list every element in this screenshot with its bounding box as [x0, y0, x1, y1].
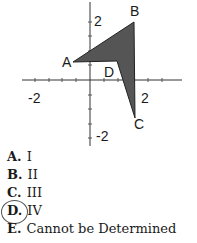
y-tick-label-neg2: -2 [96, 129, 108, 143]
choice-a[interactable]: A.I [7, 148, 176, 166]
y-tick-label-2: 2 [94, 14, 102, 28]
point-label-b: B [130, 4, 139, 18]
choice-text: III [27, 185, 42, 200]
choice-text: IV [27, 203, 42, 218]
choice-key: B. [7, 167, 23, 182]
choice-key: C. [7, 185, 22, 200]
point-label-d: D [104, 65, 114, 79]
answer-choices: A.I B.II C.III D.IV E.Cannot be Determin… [7, 148, 176, 238]
choice-c[interactable]: C.III [7, 184, 176, 202]
choice-key: A. [7, 149, 22, 164]
point-label-a: A [62, 55, 71, 69]
x-tick-label-neg2: -2 [28, 91, 40, 105]
choice-text: Cannot be Determined [26, 221, 176, 236]
choice-b[interactable]: B.II [7, 166, 176, 184]
choice-text: I [27, 149, 32, 164]
choice-e[interactable]: E.Cannot be Determined [7, 220, 176, 238]
choice-text: II [28, 167, 38, 182]
choice-key: E. [7, 221, 21, 236]
point-label-c: C [134, 117, 144, 131]
coordinate-figure: 2 B A D -2 2 C -2 [0, 0, 197, 150]
choice-d[interactable]: D.IV [7, 202, 176, 220]
x-tick-label-2: 2 [141, 91, 149, 105]
